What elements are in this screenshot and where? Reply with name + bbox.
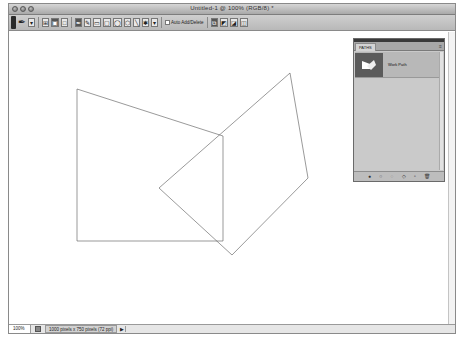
- path-list-item[interactable]: Work Path: [355, 52, 443, 78]
- new-path-icon[interactable]: ▫: [414, 174, 416, 179]
- load-selection-icon[interactable]: ◌: [391, 174, 394, 179]
- exclude-paths-button[interactable]: ◫: [240, 18, 248, 27]
- window-title: Untitled-1 @ 100% (RGB/8) *: [9, 5, 455, 11]
- freeform-pen-button[interactable]: ✎: [84, 18, 91, 27]
- right-quadrilateral-path[interactable]: [159, 73, 308, 255]
- rounded-rectangle-button[interactable]: ▢: [103, 18, 111, 27]
- title-bar[interactable]: Untitled-1 @ 100% (RGB/8) *: [9, 4, 455, 15]
- rectangle-button[interactable]: ▭: [93, 18, 101, 27]
- separator: [71, 17, 72, 28]
- panel-scrollbar[interactable]: [439, 52, 443, 170]
- shape-layers-button[interactable]: ⊞: [42, 18, 49, 27]
- separator: [207, 17, 208, 28]
- path-name: Work Path: [388, 62, 407, 67]
- options-bar-grip[interactable]: [11, 16, 16, 29]
- separator: [38, 17, 39, 28]
- status-bar: 100% 1000 pixels x 750 pixels (72 ppi) ▶: [9, 324, 455, 333]
- stroke-path-icon[interactable]: ○: [379, 174, 382, 179]
- paths-panel: PATHS ≡ Work Path ● ○ ◌ ◇ ▫ 🗑: [353, 38, 445, 182]
- checkbox-box[interactable]: [165, 20, 170, 25]
- combine-paths-button[interactable]: ⧉: [211, 18, 218, 27]
- separator: [161, 17, 162, 28]
- tool-preset-dropdown[interactable]: ▾: [28, 18, 35, 27]
- path-thumbnail-icon: [361, 59, 377, 71]
- vertical-scrollbar[interactable]: [448, 32, 455, 324]
- fill-pixels-button[interactable]: □: [61, 18, 68, 27]
- zoom-level-field[interactable]: 100%: [9, 325, 31, 333]
- make-work-path-icon[interactable]: ◇: [402, 174, 406, 179]
- pen-tool-icon[interactable]: ✒: [18, 18, 26, 27]
- intersect-paths-button[interactable]: ◪: [230, 18, 238, 27]
- panel-footer: ● ○ ◌ ◇ ▫ 🗑: [354, 171, 444, 181]
- panel-menu-icon[interactable]: ≡: [439, 43, 442, 49]
- status-info-icon[interactable]: [35, 326, 41, 332]
- path-thumbnail: [355, 53, 383, 77]
- path-list-empty-area: [355, 79, 438, 170]
- left-quadrilateral-path[interactable]: [77, 89, 223, 241]
- document-info: 1000 pixels x 750 pixels (72 ppi): [45, 325, 117, 333]
- auto-add-delete-label: Auto Add/Delete: [171, 20, 204, 25]
- ellipse-button[interactable]: ◯: [113, 18, 122, 27]
- geometry-options-button[interactable]: ▾: [151, 18, 158, 27]
- options-bar: ✒ ▾ ⊞ ▣ □ ✒ ✎ ▭ ▢ ◯ ⬡ ╲ ✱ ▾ Auto Add/Del…: [9, 15, 455, 31]
- tab-paths[interactable]: PATHS: [355, 43, 376, 51]
- panel-tab-bar: PATHS ≡: [354, 42, 444, 51]
- subtract-paths-button[interactable]: ◩: [220, 18, 228, 27]
- polygon-button[interactable]: ⬡: [124, 18, 131, 27]
- paths-button[interactable]: ▣: [51, 18, 59, 27]
- auto-add-delete-checkbox[interactable]: Auto Add/Delete: [165, 20, 204, 25]
- fill-path-icon[interactable]: ●: [368, 174, 371, 179]
- pen-button[interactable]: ✒: [75, 18, 82, 27]
- custom-shape-button[interactable]: ✱: [142, 18, 149, 27]
- trash-icon[interactable]: 🗑: [424, 174, 430, 179]
- line-button[interactable]: ╲: [133, 18, 140, 27]
- status-menu-arrow-icon[interactable]: ▶: [119, 326, 126, 332]
